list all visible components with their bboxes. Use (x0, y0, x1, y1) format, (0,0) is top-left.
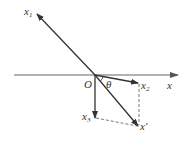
x3-label: x3 (81, 110, 91, 124)
angle-arc (101, 77, 104, 82)
origin-label: O (84, 78, 92, 90)
x-axis-label: x (166, 79, 172, 91)
dashed-x3-to-xprime (96, 118, 137, 126)
x2-label: x2 (140, 79, 150, 93)
x1-label: x1 (23, 5, 32, 19)
x-prime-vector (95, 75, 138, 126)
diagram: x1 O θ x2 x x3 x' (0, 0, 188, 142)
x1-vector (37, 14, 95, 75)
vector-diagram: x1 O θ x2 x x3 x' (0, 0, 188, 142)
angle-label: θ (106, 78, 112, 90)
x-prime-label: x' (139, 120, 148, 132)
